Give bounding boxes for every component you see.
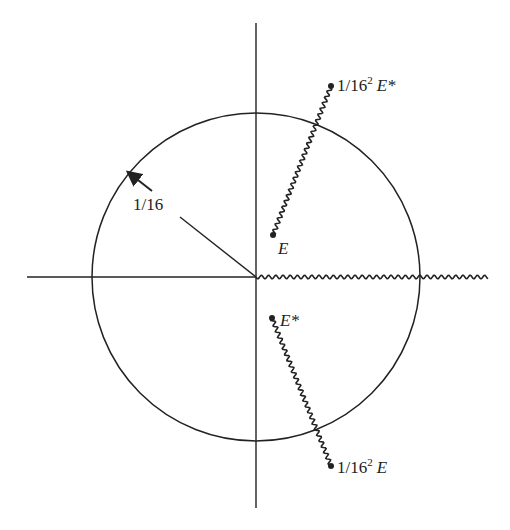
label-E-star: E* (279, 311, 299, 330)
label-inv-E-star-prefix: 1/16 (337, 76, 367, 95)
branch-cut-upper (273, 85, 332, 235)
label-inv-E-star: 1/162E* (337, 74, 396, 95)
point-E-star (269, 315, 275, 321)
point-inv-E-star (328, 83, 334, 89)
radius-label: 1/16 (133, 195, 163, 214)
complex-plane-diagram: 1/16 E E* 1/162E* 1/162E (0, 0, 510, 530)
label-inv-E-prefix: 1/16 (337, 458, 367, 477)
label-E: E (277, 239, 289, 258)
label-inv-E-symbol: E (376, 458, 388, 477)
point-inv-E (328, 463, 334, 469)
label-inv-E-exp: 2 (367, 456, 373, 468)
label-inv-E: 1/162E (337, 456, 388, 477)
point-E (270, 232, 276, 238)
diagram-canvas: 1/16 E E* 1/162E* 1/162E (0, 0, 510, 530)
branch-cut-lower (271, 318, 333, 465)
radius-arrow-icon (129, 173, 152, 191)
branch-cut-real-axis (256, 275, 488, 279)
label-inv-E-star-exp: 2 (367, 74, 373, 86)
radius-line (180, 217, 256, 277)
label-inv-E-star-symbol: E* (376, 76, 396, 95)
